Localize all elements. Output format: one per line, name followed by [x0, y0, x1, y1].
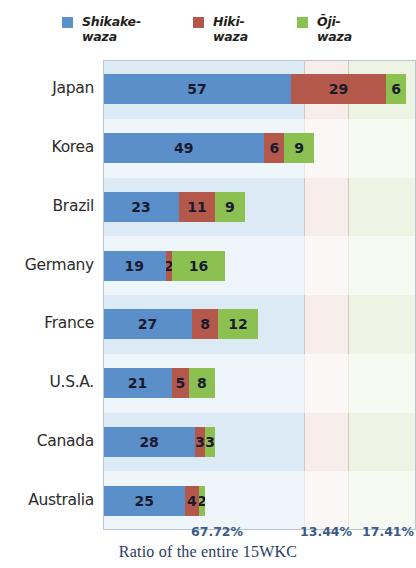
bar-segment-hikiwaza[interactable]: 8	[192, 309, 218, 339]
category-axis-labels: JapanKoreaBrazilGermanyFranceU.S.A.Canad…	[0, 60, 103, 530]
bar-segment-shikakewaza[interactable]: 27	[103, 309, 192, 339]
percent-annotations: 67.72% 13.44% 17.41%	[103, 524, 416, 544]
bar-row[interactable]: 27812	[103, 309, 258, 339]
bar-segment-shikakewaza[interactable]: 28	[103, 427, 195, 457]
category-label-france: France	[44, 314, 94, 332]
category-label-japan: Japan	[52, 79, 94, 97]
chart-plot-wrapper: JapanKoreaBrazilGermanyFranceU.S.A.Canad…	[0, 60, 416, 530]
bar-segment-hikiwaza[interactable]: 11	[179, 192, 215, 222]
bar-segment-shikakewaza[interactable]: 19	[103, 251, 166, 281]
bar-segment-jiwaza[interactable]: 9	[215, 192, 245, 222]
legend-swatch-green-icon	[297, 17, 308, 28]
legend-item-shikake-waza: Shikake- waza	[62, 14, 141, 44]
percent-label-hiki: 13.44%	[300, 524, 352, 539]
legend-swatch-blue-icon	[62, 17, 73, 28]
legend-item-hiki-waza: Hiki- waza	[193, 14, 248, 44]
bar-row[interactable]: 57296	[103, 74, 406, 104]
legend-label-shikake-waza: Shikake- waza	[82, 14, 141, 44]
legend-item-oji-waza: Ōji- waza	[297, 14, 352, 44]
category-label-australia: Australia	[28, 491, 94, 509]
bar-row[interactable]: 4969	[103, 133, 314, 163]
bar-segment-hikiwaza[interactable]: 3	[195, 427, 205, 457]
bar-row[interactable]: 23119	[103, 192, 245, 222]
bar-row[interactable]: 2542	[103, 486, 205, 516]
legend-label-oji-waza: Ōji- waza	[317, 14, 352, 44]
chart-legend: Shikake- waza Hiki- waza Ōji- waza	[0, 0, 416, 60]
bar-row[interactable]: 19216	[103, 251, 225, 281]
bar-segment-shikakewaza[interactable]: 23	[103, 192, 179, 222]
category-label-canada: Canada	[37, 432, 94, 450]
legend-swatch-red-icon	[193, 17, 204, 28]
category-label-germany: Germany	[25, 256, 94, 274]
legend-label-hiki-waza: Hiki- waza	[213, 14, 248, 44]
bar-segment-hikiwaza[interactable]: 29	[291, 74, 387, 104]
bar-segment-shikakewaza[interactable]: 49	[103, 133, 264, 163]
category-label-brazil: Brazil	[53, 197, 94, 215]
bar-segment-shikakewaza[interactable]: 57	[103, 74, 291, 104]
bar-segment-jiwaza[interactable]: 9	[284, 133, 314, 163]
bar-segment-shikakewaza[interactable]: 21	[103, 368, 172, 398]
category-label-korea: Korea	[52, 138, 94, 156]
category-label-usa: U.S.A.	[50, 373, 95, 391]
bar-segment-hikiwaza[interactable]: 4	[185, 486, 198, 516]
percent-label-oji: 17.41%	[362, 524, 414, 539]
bar-segment-jiwaza[interactable]: 8	[189, 368, 215, 398]
bar-segment-hikiwaza[interactable]: 5	[172, 368, 188, 398]
bar-segment-jiwaza[interactable]: 6	[386, 74, 406, 104]
plot-area: 572964969231191921627812215828332542	[103, 60, 416, 530]
percent-label-shikake: 67.72%	[191, 524, 243, 539]
chart-caption: Ratio of the entire 15WKC	[0, 543, 416, 561]
bar-row[interactable]: 2158	[103, 368, 215, 398]
bar-segment-jiwaza[interactable]: 3	[205, 427, 215, 457]
bar-segment-hikiwaza[interactable]: 6	[264, 133, 284, 163]
bar-segment-shikakewaza[interactable]: 25	[103, 486, 185, 516]
bar-segment-hikiwaza[interactable]: 2	[166, 251, 173, 281]
bar-segment-jiwaza[interactable]: 2	[199, 486, 206, 516]
bar-segment-jiwaza[interactable]: 16	[172, 251, 225, 281]
bar-row[interactable]: 2833	[103, 427, 215, 457]
bar-segment-jiwaza[interactable]: 12	[218, 309, 258, 339]
